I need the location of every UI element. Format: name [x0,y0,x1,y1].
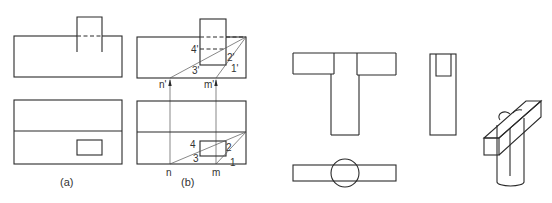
t-shape-front-view [293,53,396,135]
figure-a: (a) [14,17,122,188]
side-view [430,54,456,135]
orthographic-projection-diagram: (a) 4' 2' 3' 1' n' m' [0,0,552,203]
figure-a-front-view [14,17,122,77]
figure-b-caption: (b) [181,176,194,188]
isometric-view [484,101,541,186]
label-n-prime: n' [159,79,167,90]
arrow-up-icon [168,79,171,86]
figure-b: 4' 2' 3' 1' n' m' 4 2 3 1 n m (b) [137,19,246,188]
figure-b-top-view: 4 2 3 1 n m [137,101,246,178]
t-shape-top-view [293,159,396,187]
figure-c [293,53,396,187]
label-4-prime: 4' [191,44,199,55]
figure-b-front-view: 4' 2' 3' 1' n' m' [137,19,246,90]
label-3: 3 [193,153,199,164]
figure-d [430,54,541,186]
label-2-prime: 2' [227,52,235,63]
projection-lines [168,79,217,164]
label-4: 4 [190,139,196,150]
figure-a-caption: (a) [60,176,73,188]
arrow-up-icon [214,79,217,86]
label-m-prime: m' [204,79,214,90]
figure-a-top-view [14,100,122,164]
label-3-prime: 3' [192,65,200,76]
label-n: n [166,167,172,178]
label-m: m [212,167,220,178]
label-1: 1 [230,157,236,168]
label-2: 2 [226,142,232,153]
label-1-prime: 1' [231,63,239,74]
